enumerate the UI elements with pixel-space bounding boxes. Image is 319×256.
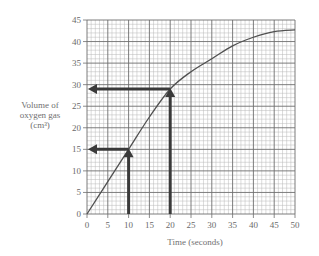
x-tick-label: 40: [249, 220, 259, 230]
x-tick-label: 50: [291, 220, 301, 230]
y-axis-label: Volume of oxygen gas (cm³): [6, 100, 74, 130]
y-axis-ticks: 051015202530354045: [72, 15, 87, 219]
x-tick-label: 5: [106, 220, 111, 230]
y-axis-label-line-2: oxygen gas: [6, 110, 74, 120]
y-tick-label: 35: [72, 58, 82, 68]
x-tick-label: 20: [166, 220, 176, 230]
x-axis-ticks: 05101520253035404550: [85, 214, 300, 230]
y-tick-label: 45: [72, 15, 82, 25]
x-tick-label: 25: [187, 220, 197, 230]
x-tick-label: 0: [85, 220, 90, 230]
x-tick-label: 45: [270, 220, 280, 230]
x-tick-label: 35: [228, 220, 238, 230]
y-tick-label: 15: [72, 144, 82, 154]
y-tick-label: 10: [72, 166, 82, 176]
y-tick-label: 40: [72, 37, 82, 47]
arrow-left-icon: [88, 84, 97, 94]
y-axis-label-line-3: (cm³): [6, 120, 74, 130]
arrow-left-icon: [88, 144, 97, 154]
y-tick-label: 5: [77, 187, 82, 197]
x-tick-label: 15: [145, 220, 155, 230]
x-tick-label: 30: [207, 220, 217, 230]
y-tick-label: 0: [77, 209, 82, 219]
y-axis-label-line-1: Volume of: [6, 100, 74, 110]
y-tick-label: 30: [72, 80, 82, 90]
major-grid: [87, 20, 295, 214]
x-tick-label: 10: [124, 220, 134, 230]
x-axis-label: Time (seconds): [140, 237, 250, 247]
